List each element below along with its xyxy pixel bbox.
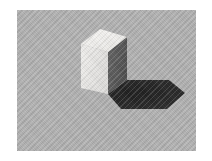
image-frame — [17, 10, 196, 151]
cube-stage — [17, 10, 196, 151]
cube-left-face — [81, 44, 108, 94]
rendered-image-canvas — [0, 0, 212, 161]
